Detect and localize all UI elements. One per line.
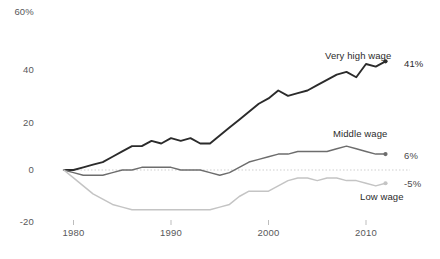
- series-line-low-wage: [64, 170, 386, 210]
- y-tick-label-40: 40: [0, 64, 34, 75]
- series-endpoint-middle-wage: [383, 152, 387, 156]
- series-label-very-high-wage: Very high wage: [325, 50, 391, 61]
- series-label-low-wage: Low wage: [360, 191, 404, 202]
- end-label-low-wage: -5%: [404, 178, 421, 189]
- y-tick-label-60: 60%: [0, 6, 34, 17]
- series-endpoint-low-wage: [383, 181, 387, 185]
- wage-growth-line-chart: 60% 40 20 0 -20 1980 1990 2000 2010 Very…: [0, 0, 440, 259]
- y-tick-label-20: 20: [0, 117, 34, 128]
- x-axis-ticks: [74, 220, 367, 225]
- series-line-very-high-wage: [64, 61, 386, 170]
- x-tick-label-1990: 1990: [141, 227, 201, 238]
- x-tick-label-2000: 2000: [239, 227, 299, 238]
- y-tick-label-0: 0: [0, 164, 34, 175]
- end-label-very-high-wage: 41%: [404, 58, 423, 69]
- x-tick-label-1980: 1980: [44, 227, 104, 238]
- end-label-middle-wage: 6%: [404, 150, 418, 161]
- series-line-middle-wage: [64, 146, 386, 175]
- series-label-middle-wage: Middle wage: [333, 128, 387, 139]
- x-tick-label-2010: 2010: [336, 227, 396, 238]
- y-tick-label-minus-20: -20: [0, 216, 34, 227]
